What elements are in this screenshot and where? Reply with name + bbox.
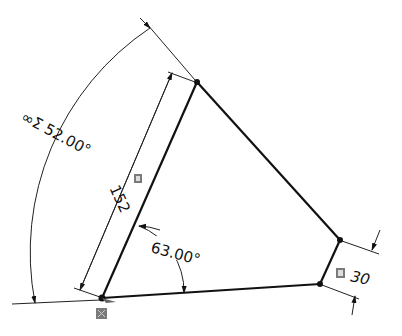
dim-prefix: ∞Σ: [18, 108, 46, 134]
vertex-right-lower[interactable]: [317, 281, 323, 287]
svg-text:∞Σ52.00°: ∞Σ52.00°: [18, 108, 94, 160]
dim-value: 30: [349, 267, 371, 289]
dimension-arc-52[interactable]: ∞Σ52.00°: [18, 18, 150, 303]
edge-top-right[interactable]: [197, 82, 340, 240]
sketch-canvas: ∞Σ52.00° 152 63.00° 30: [0, 0, 402, 336]
dimension-angle-63[interactable]: 63.00°: [139, 226, 220, 293]
edge-bottom[interactable]: [102, 284, 320, 298]
sketch-profile[interactable]: [102, 82, 340, 298]
dimension-short-30[interactable]: 30: [336, 230, 380, 315]
vertex-right-upper[interactable]: [337, 237, 343, 243]
origin-icon: [96, 298, 116, 319]
dim-value: 152: [106, 182, 134, 215]
